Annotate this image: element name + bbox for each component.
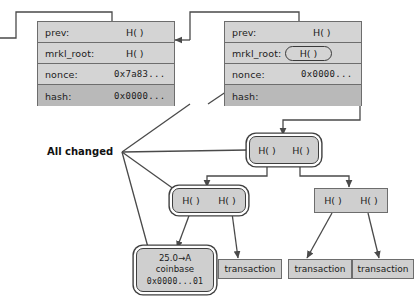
row-value-prev: H( ): [126, 27, 144, 38]
row-value-prev: H( ): [313, 27, 331, 38]
coinbase-hash: 0x0000...01: [147, 276, 203, 287]
row-value-nonce: 0x7a83...: [114, 69, 165, 79]
coinbase-transaction-box: 25.0→A coinbase 0x0000...01: [136, 248, 214, 292]
wire-allchanged-to-hash: [122, 104, 190, 152]
block-row-hash: hash:: [225, 85, 361, 106]
row-value-hash: 0x0000...: [114, 91, 165, 101]
wire-allchanged-to-midleft: [122, 152, 178, 192]
block-row-hash: hash: 0x0000...: [38, 85, 174, 106]
mrkl-root-highlight-pill: H( ): [285, 46, 332, 61]
merkle-mid-right-label-b: H( ): [360, 195, 378, 206]
row-key-nonce: nonce:: [45, 69, 78, 80]
wire-allchanged-to-coinbase: [122, 152, 152, 262]
block-header-right: prev: H( ) mrkl_root: H( ) nonce: 0x0000…: [224, 21, 362, 106]
merkle-mid-right-node: H( ) H( ): [314, 188, 388, 213]
row-key-mrkl-root: mrkl_root:: [232, 48, 281, 59]
coinbase-type: coinbase: [156, 264, 194, 276]
transaction-box-2: transaction: [288, 259, 352, 279]
wire-midright-to-tx3: [368, 213, 379, 258]
row-key-nonce: nonce:: [232, 69, 265, 80]
row-key-hash: hash:: [232, 90, 259, 101]
block-row-mrkl-root: mrkl_root: H( ): [38, 43, 174, 64]
transaction-label: transaction: [225, 264, 276, 274]
diagram-canvas: prev: H( ) mrkl_root: H( ) nonce: 0x7a83…: [0, 0, 418, 300]
wire-midleft-to-tx1: [232, 213, 238, 258]
block-row-prev: prev: H( ): [38, 22, 174, 43]
merkle-mid-left-node: H( ) H( ): [172, 188, 246, 213]
row-key-mrkl-root: mrkl_root:: [45, 48, 94, 59]
row-value-nonce: 0x0000...: [301, 69, 352, 79]
transaction-box-1: transaction: [218, 259, 282, 279]
merkle-mid-right-label-a: H( ): [324, 195, 342, 206]
block-row-prev: prev: H( ): [225, 22, 361, 43]
wire-allchanged-to-root: [122, 150, 248, 152]
all-changed-caption: All changed: [47, 146, 113, 157]
row-key-prev: prev:: [45, 27, 69, 38]
block-row-nonce: nonce: 0x7a83...: [38, 64, 174, 85]
wire-midright-to-tx2: [307, 213, 332, 258]
wire-root-to-mid-left: [207, 165, 267, 187]
block-header-left: prev: H( ) mrkl_root: H( ) nonce: 0x7a83…: [37, 21, 175, 106]
merkle-root-right-label: H( ): [292, 145, 310, 156]
merkle-mid-left-label-a: H( ): [182, 195, 200, 206]
transaction-box-3: transaction: [352, 259, 414, 279]
transaction-label: transaction: [295, 264, 346, 274]
merkle-root-left-label: H( ): [258, 145, 276, 156]
merkle-root-node: H( ) H( ): [249, 136, 319, 164]
merkle-mid-left-label-b: H( ): [218, 195, 236, 206]
block-row-nonce: nonce: 0x0000...: [225, 64, 361, 85]
row-value-mrkl-root: H( ): [126, 48, 144, 59]
row-key-hash: hash:: [45, 90, 72, 101]
row-key-prev: prev:: [232, 27, 256, 38]
coinbase-amount: 25.0→A: [159, 253, 191, 265]
block-row-mrkl-root: mrkl_root: H( ): [225, 43, 361, 64]
wire-midleft-to-coinbase: [177, 213, 190, 248]
wire-root-to-mid-right: [300, 165, 349, 187]
transaction-label: transaction: [358, 264, 409, 274]
